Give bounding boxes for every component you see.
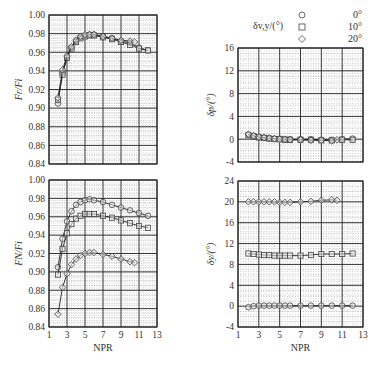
circle-marker-icon	[272, 303, 278, 309]
y-tick-label: 4	[229, 112, 234, 122]
x-tick-label: 1	[236, 330, 241, 340]
major-grid	[238, 48, 363, 162]
diamond-marker-icon	[299, 36, 306, 43]
diamond-marker-icon	[118, 256, 125, 263]
circle-marker-icon	[136, 210, 142, 216]
circle-marker-icon	[266, 303, 272, 309]
y-tick-label: 0.92	[28, 249, 45, 259]
circle-marker-icon	[251, 303, 257, 309]
x-tick-label: 5	[277, 330, 282, 340]
circle-marker-icon	[277, 303, 283, 309]
x-axis-label: NPR	[291, 342, 311, 353]
y-tick-label: 16	[225, 218, 235, 228]
legend-label: 10°	[348, 21, 362, 32]
y-axis-label: δy/(°)	[205, 242, 217, 265]
legend-title: δv,y/(°)	[253, 20, 283, 32]
diamond-marker-icon	[287, 199, 294, 206]
circle-marker-icon	[109, 202, 115, 208]
square-marker-icon	[319, 251, 324, 256]
plot-thrust-ratio: 0.840.860.880.900.920.940.960.981.00Fr/F…	[13, 10, 157, 169]
circle-marker-icon	[339, 303, 345, 309]
circle-marker-icon	[329, 303, 335, 309]
y-tick-label: 8	[229, 89, 234, 99]
square-marker-icon	[256, 252, 261, 257]
diamond-marker-icon	[64, 270, 71, 277]
y-tick-label: 0.96	[28, 48, 45, 58]
circle-marker-icon	[298, 303, 304, 309]
diamond-marker-icon	[100, 251, 107, 258]
square-marker-icon	[350, 251, 355, 256]
circle-marker-icon	[319, 303, 325, 309]
square-marker-icon	[272, 253, 277, 258]
y-tick-label: 12	[225, 239, 235, 249]
y-tick-label: 0.84	[28, 322, 45, 332]
legend-label: 0°	[353, 9, 362, 20]
x-axis-label: NPR	[93, 342, 113, 353]
circle-marker-icon	[299, 12, 305, 18]
square-marker-icon	[100, 213, 105, 218]
x-tick-label: 3	[256, 330, 261, 340]
square-marker-icon	[64, 231, 69, 236]
square-marker-icon	[136, 46, 141, 51]
y-tick-label: 1.00	[28, 10, 45, 20]
y-tick-label: 20	[225, 197, 235, 207]
y-axis-label: FN/Fi	[13, 241, 24, 267]
square-marker-icon	[69, 222, 74, 227]
square-marker-icon	[308, 252, 313, 257]
y-tick-label: 0.94	[28, 66, 45, 76]
diamond-marker-icon	[334, 197, 341, 204]
y-tick-label: 0.92	[28, 85, 45, 95]
y-tick-label: 4	[229, 281, 234, 291]
y-tick-label: 8	[229, 260, 234, 270]
y-tick-label: 0	[229, 301, 234, 311]
square-marker-icon	[251, 251, 256, 256]
plot-normal-force-ratio: 0.840.860.880.900.920.940.960.981.001357…	[13, 175, 162, 353]
square-marker-icon	[340, 251, 345, 256]
x-tick-label: 9	[119, 330, 124, 340]
square-marker-icon	[350, 137, 355, 142]
legend: δv,y/(°) 0° 10° 20°	[253, 9, 362, 44]
x-tick-label: 1	[47, 330, 52, 340]
y-axis-label: δp/(°)	[205, 93, 217, 117]
x-tick-label: 9	[319, 330, 324, 340]
y-tick-label: 0.96	[28, 212, 45, 222]
square-marker-icon	[118, 218, 123, 223]
circle-marker-icon	[350, 303, 356, 309]
square-marker-icon	[109, 215, 114, 220]
circle-marker-icon	[100, 199, 106, 205]
x-tick-label: 5	[83, 330, 88, 340]
square-marker-icon	[299, 24, 305, 30]
square-marker-icon	[145, 225, 150, 230]
y-tick-label: 0.86	[28, 141, 45, 151]
x-tick-label: 7	[101, 330, 106, 340]
square-marker-icon	[298, 253, 303, 258]
y-tick-label: 0.88	[28, 122, 45, 132]
legend-entry-0: 0°	[299, 9, 362, 20]
diamond-marker-icon	[297, 199, 304, 206]
circle-marker-icon	[261, 303, 267, 309]
x-tick-label: 11	[338, 330, 347, 340]
legend-entry-1: 10°	[299, 21, 362, 32]
circle-marker-icon	[69, 208, 75, 214]
y-tick-label: 0.98	[28, 194, 45, 204]
circle-marker-icon	[127, 208, 133, 214]
x-tick-label: 13	[152, 330, 162, 340]
y-tick-label: -4	[226, 157, 234, 167]
diamond-marker-icon	[55, 311, 62, 318]
square-marker-icon	[55, 272, 60, 277]
y-axis-label: Fr/Fi	[13, 78, 24, 101]
y-tick-label: 0	[229, 135, 234, 145]
square-marker-icon	[267, 252, 272, 257]
square-marker-icon	[145, 48, 150, 53]
circle-marker-icon	[308, 303, 314, 309]
plot-yaw-angle: -404812162024135791113NPRδy/(°)	[205, 176, 368, 353]
figure: δv,y/(°) 0° 10° 20° 0.840.860.880.900.92…	[0, 0, 371, 365]
legend-label: 20°	[348, 33, 362, 44]
legend-entry-2: 20°	[299, 33, 363, 44]
x-tick-label: 13	[358, 330, 368, 340]
square-marker-icon	[127, 221, 132, 226]
x-tick-label: 3	[65, 330, 70, 340]
square-marker-icon	[136, 223, 141, 228]
square-marker-icon	[261, 252, 266, 257]
square-marker-icon	[60, 246, 65, 251]
